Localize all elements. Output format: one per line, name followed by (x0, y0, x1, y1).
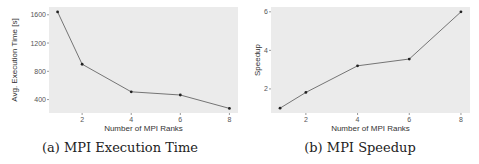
y-axis-label: Avg. Execution Time [s] (10, 18, 19, 101)
caption-execution-time: (a) MPI Execution Time (0, 140, 240, 155)
speedup-chart: 2462468Number of MPI RanksSpeedup (240, 0, 479, 140)
execution-time-chart: 400800120016002468Number of MPI RanksAvg… (0, 0, 240, 140)
x-tick-label: 6 (407, 116, 411, 123)
y-tick-label: 6 (264, 8, 268, 15)
x-tick-label: 4 (129, 116, 133, 123)
figure-execution-time: 400800120016002468Number of MPI RanksAvg… (0, 0, 240, 164)
data-point (279, 107, 282, 110)
data-point (81, 63, 84, 66)
data-point (179, 94, 182, 97)
x-tick-label: 2 (304, 116, 308, 123)
x-tick-label: 8 (227, 116, 231, 123)
y-axis-label: Speedup (253, 43, 262, 76)
y-tick-label: 2 (264, 85, 268, 92)
y-tick-label: 1200 (30, 40, 46, 47)
plot-panel (271, 7, 470, 113)
x-tick-label: 8 (459, 116, 463, 123)
x-tick-label: 6 (178, 116, 182, 123)
figure-speedup: 2462468Number of MPI RanksSpeedup (b) MP… (240, 0, 479, 164)
data-point (130, 90, 133, 93)
data-point (408, 58, 411, 61)
caption-speedup: (b) MPI Speedup (240, 140, 479, 155)
y-tick-label: 1600 (30, 11, 46, 18)
x-tick-label: 4 (356, 116, 360, 123)
data-point (304, 91, 307, 94)
x-axis-label: Number of MPI Ranks (104, 124, 183, 133)
data-point (228, 107, 231, 110)
data-point (356, 64, 359, 67)
plot-panel (49, 7, 238, 113)
y-tick-label: 800 (34, 68, 46, 75)
y-tick-label: 400 (34, 96, 46, 103)
x-axis-label: Number of MPI Ranks (331, 124, 410, 133)
data-point (460, 10, 463, 13)
data-point (56, 11, 59, 14)
y-tick-label: 4 (264, 47, 268, 54)
x-tick-label: 2 (80, 116, 84, 123)
